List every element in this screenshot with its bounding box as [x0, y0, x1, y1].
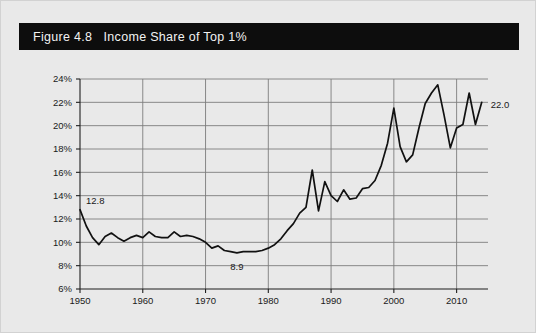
y-axis-label: 24% — [53, 73, 73, 84]
y-axis-tick-labels: 6%8%10%12%14%16%18%20%22%24% — [53, 73, 73, 294]
data-point-label: 8.9 — [230, 261, 243, 272]
figure-container: Figure 4.8 Income Share of Top 1% 6%8%10… — [0, 0, 536, 333]
x-axis-label: 1970 — [195, 295, 216, 306]
y-axis-label: 10% — [53, 237, 73, 248]
data-point-label: 22.0 — [491, 99, 510, 110]
x-axis-tick-labels: 1950196019701980199020002010 — [69, 295, 467, 306]
line-chart: 6%8%10%12%14%16%18%20%22%24% 19501960197… — [1, 1, 536, 333]
axis-ticks — [76, 79, 457, 293]
data-series — [80, 85, 482, 253]
series-line-income-share — [80, 85, 482, 253]
axis-lines — [80, 79, 488, 289]
y-axis-label: 8% — [58, 260, 72, 271]
y-axis-label: 12% — [53, 213, 73, 224]
data-point-label: 12.8 — [86, 195, 105, 206]
x-axis-label: 2010 — [446, 295, 467, 306]
y-axis-label: 14% — [53, 190, 73, 201]
y-axis-label: 16% — [53, 167, 73, 178]
y-axis-label: 18% — [53, 143, 73, 154]
gridlines — [80, 79, 488, 289]
x-axis-label: 1980 — [258, 295, 279, 306]
y-axis-label: 6% — [58, 283, 72, 294]
x-axis-label: 1950 — [69, 295, 90, 306]
x-axis-label: 2000 — [383, 295, 404, 306]
x-axis-label: 1990 — [321, 295, 342, 306]
x-axis-label: 1960 — [132, 295, 153, 306]
y-axis-label: 22% — [53, 97, 73, 108]
y-axis-label: 20% — [53, 120, 73, 131]
chart-plot-area: 6%8%10%12%14%16%18%20%22%24% 19501960197… — [1, 1, 536, 333]
